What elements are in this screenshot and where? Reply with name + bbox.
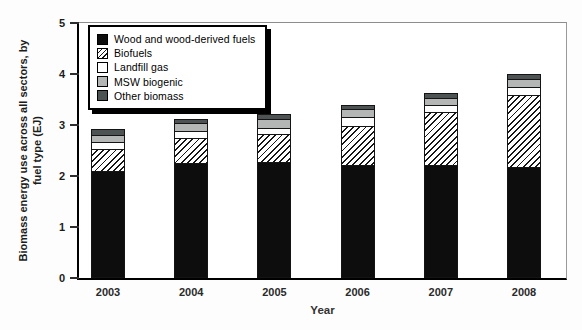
segment-wood-2006 <box>341 165 375 278</box>
biofuels-hatch-swatch-icon <box>97 48 108 59</box>
segment-biofuels-2007 <box>424 112 458 166</box>
bar-2007 <box>424 93 458 278</box>
y-axis-tick-1 <box>70 226 79 228</box>
segment-biofuels-2006 <box>341 126 375 167</box>
y-axis-tick-label-4: 4 <box>59 69 65 80</box>
biomass-energy-stacked-bar-chart: Biomass energy use across all sectors, b… <box>0 0 582 330</box>
y-axis-title-line2: fuel type (EJ) <box>31 40 45 262</box>
landfill-gas-swatch-icon <box>97 62 108 73</box>
y-axis-tick-5 <box>70 22 79 24</box>
segment-biofuels-2005 <box>257 134 291 164</box>
x-axis-title: Year <box>310 304 334 316</box>
other-biomass-swatch-icon <box>97 90 108 101</box>
x-axis-tick-label-2006: 2006 <box>345 286 369 298</box>
segment-wood-2003 <box>91 171 125 278</box>
x-axis-tick-label-2007: 2007 <box>429 286 453 298</box>
legend-label-biofuels: Biofuels <box>114 47 152 59</box>
segment-wood-2007 <box>424 165 458 278</box>
legend-label-landfill-gas: Landfill gas <box>114 61 168 73</box>
legend-item-other-biomass: Other biomass <box>97 89 255 103</box>
legend-label-msw-biogenic: MSW biogenic <box>114 76 183 88</box>
y-axis-tick-label-0: 0 <box>59 273 65 284</box>
y-axis-title-line1: Biomass energy use across all sectors, b… <box>18 40 32 262</box>
x-axis-tick-label-2005: 2005 <box>262 286 286 298</box>
legend-label-other-biomass: Other biomass <box>114 90 184 102</box>
bar-2008 <box>507 74 541 278</box>
y-axis-tick-3 <box>70 124 79 126</box>
bar-2005 <box>257 114 291 278</box>
legend-item-msw-biogenic: MSW biogenic <box>97 75 255 89</box>
legend: Wood and wood-derived fuels Biofuels Lan… <box>88 25 267 110</box>
y-axis-tick-0 <box>70 277 79 279</box>
segment-biofuels-2003 <box>91 149 125 171</box>
y-axis-tick-label-1: 1 <box>59 222 65 233</box>
bar-2004 <box>174 119 208 278</box>
legend-item-wood: Wood and wood-derived fuels <box>97 32 255 46</box>
wood-swatch-icon <box>97 34 108 45</box>
x-axis-tick-label-2008: 2008 <box>512 286 536 298</box>
segment-biofuels-2004 <box>174 138 208 165</box>
y-axis-tick-label-5: 5 <box>59 18 65 29</box>
x-axis-tick-label-2003: 2003 <box>96 286 120 298</box>
segment-biofuels-2008 <box>507 95 541 168</box>
legend-label-wood: Wood and wood-derived fuels <box>114 33 255 45</box>
bar-2003 <box>91 129 125 278</box>
x-axis-tick-label-2004: 2004 <box>179 286 203 298</box>
legend-item-biofuels: Biofuels <box>97 46 255 60</box>
y-axis-tick-2 <box>70 175 79 177</box>
y-axis-tick-4 <box>70 73 79 75</box>
msw-biogenic-swatch-icon <box>97 76 108 87</box>
plot-area: Biomass energy use across all sectors, b… <box>77 22 567 280</box>
legend-item-landfill-gas: Landfill gas <box>97 60 255 74</box>
y-axis-tick-label-2: 2 <box>59 171 65 182</box>
bar-2006 <box>341 105 375 278</box>
y-axis-tick-label-3: 3 <box>59 120 65 131</box>
segment-wood-2005 <box>257 162 291 278</box>
segment-wood-2008 <box>507 167 541 278</box>
segment-wood-2004 <box>174 163 208 278</box>
y-axis-title: Biomass energy use across all sectors, b… <box>2 23 60 278</box>
